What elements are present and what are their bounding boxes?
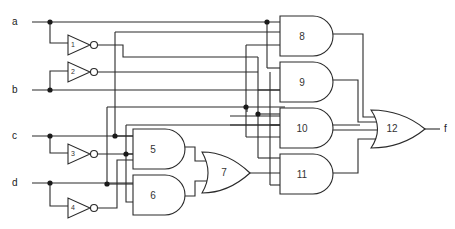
circuit-wires — [0, 0, 455, 229]
gate-5-label: 5 — [145, 145, 161, 155]
gate-6-label: 6 — [145, 191, 161, 201]
gate-11-label: 11 — [294, 170, 310, 180]
inverter-3-label: 3 — [71, 150, 75, 157]
gate-12-label: 12 — [384, 124, 400, 134]
inverter-2-label: 2 — [71, 68, 75, 75]
output-label-f: f — [444, 124, 447, 134]
gate-9-label: 9 — [294, 78, 310, 88]
input-label-b: b — [12, 85, 18, 95]
input-label-c: c — [12, 131, 17, 141]
logic-circuit-diagram: a b c d f 1 2 3 4 5 6 7 8 9 10 11 12 — [0, 0, 455, 229]
gate-7-label: 7 — [216, 168, 232, 178]
inverter-1-label: 1 — [71, 41, 75, 48]
gate-8-label: 8 — [294, 32, 310, 42]
gate-10-label: 10 — [294, 124, 310, 134]
inverter-4-label: 4 — [71, 204, 75, 211]
input-label-a: a — [12, 17, 18, 27]
input-label-d: d — [12, 178, 18, 188]
